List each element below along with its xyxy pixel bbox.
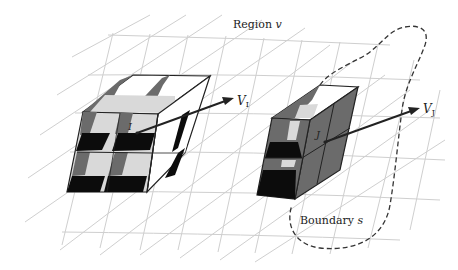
region-label: Region v bbox=[233, 19, 282, 30]
boundary-label-text: Boundary bbox=[300, 214, 357, 227]
diagram-canvas: Region v Boundary s I J VI VJ bbox=[0, 0, 458, 270]
vector-i-label: VI bbox=[237, 95, 249, 109]
region-variable: v bbox=[276, 18, 282, 31]
vector-j-label: VJ bbox=[423, 103, 435, 117]
vector-i-subscript: I bbox=[246, 100, 249, 109]
right-cell-block bbox=[257, 85, 358, 199]
region-label-text: Region bbox=[233, 18, 276, 31]
boundary-variable: s bbox=[357, 214, 363, 227]
point-i-label: I bbox=[128, 122, 132, 132]
diagram-svg bbox=[0, 0, 458, 270]
point-j-label: J bbox=[316, 130, 320, 140]
vector-j-subscript: J bbox=[432, 108, 435, 117]
vector-i-main: V bbox=[237, 94, 246, 108]
boundary-label: Boundary s bbox=[300, 215, 363, 226]
vector-j-main: V bbox=[423, 102, 432, 116]
